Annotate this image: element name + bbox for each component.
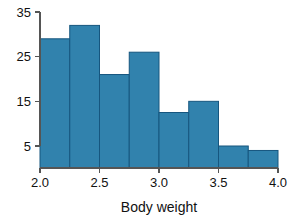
histogram-chart: 35251552.02.53.03.54.0Body weight <box>0 0 291 221</box>
x-axis-tick-label: 2.0 <box>31 175 49 190</box>
histogram-bar <box>70 25 100 168</box>
x-axis-tick-label: 4.0 <box>269 175 287 190</box>
histogram-bar <box>159 113 189 169</box>
plot-area: 35251552.02.53.03.54.0Body weight <box>0 0 291 221</box>
y-axis-tick-label: 25 <box>17 49 31 64</box>
y-axis-tick-label: 35 <box>17 5 31 20</box>
x-axis-title: Body weight <box>121 199 197 215</box>
histogram-bar <box>189 101 219 168</box>
x-axis-tick-label: 3.0 <box>150 175 168 190</box>
histogram-bar <box>248 150 278 168</box>
histogram-bar <box>129 52 159 168</box>
x-axis-tick-label: 3.5 <box>209 175 227 190</box>
histogram-bar <box>40 39 70 168</box>
y-axis-tick-label: 15 <box>17 94 31 109</box>
histogram-bar <box>100 75 130 168</box>
y-axis-tick-label: 5 <box>24 139 31 154</box>
histogram-bar <box>219 146 249 168</box>
x-axis-tick-label: 2.5 <box>90 175 108 190</box>
